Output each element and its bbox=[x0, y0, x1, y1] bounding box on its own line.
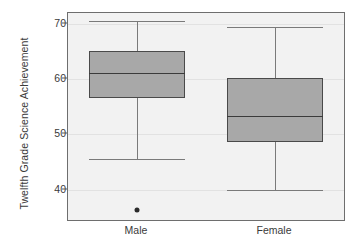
plot-area bbox=[67, 12, 345, 221]
lower-whisker-cap bbox=[227, 190, 323, 191]
boxplot-chart: Twelfth Grade Science Achievement 405060… bbox=[0, 0, 355, 247]
y-tick-label: 60 bbox=[26, 72, 66, 84]
x-tick-label-male: Male bbox=[91, 224, 181, 236]
upper-whisker bbox=[275, 27, 276, 78]
x-tick-label-female: Female bbox=[229, 224, 319, 236]
x-axis-ticks: MaleFemale bbox=[67, 224, 345, 244]
boxplot-female bbox=[68, 13, 344, 220]
box-iqr bbox=[227, 78, 323, 142]
y-axis-title: Twelfth Grade Science Achievement bbox=[16, 0, 32, 247]
y-tick-label: 50 bbox=[26, 127, 66, 139]
upper-whisker-cap bbox=[227, 27, 323, 28]
median-line bbox=[227, 116, 323, 117]
y-tick-label: 70 bbox=[26, 17, 66, 29]
lower-whisker bbox=[275, 142, 276, 189]
y-tick-label: 40 bbox=[26, 183, 66, 195]
